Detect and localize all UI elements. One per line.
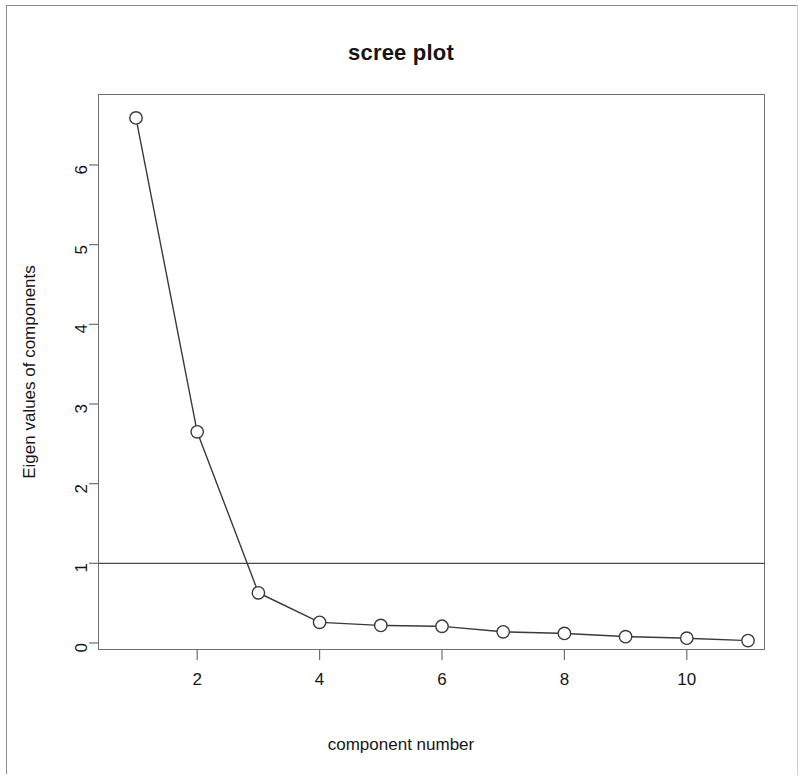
y-tick-label: 4 <box>72 324 92 333</box>
data-point-marker <box>742 634 754 646</box>
plot-drawing-surface <box>0 0 802 776</box>
data-point-marker <box>619 630 631 642</box>
y-tick-label: 5 <box>72 245 92 254</box>
data-point-marker <box>681 632 693 644</box>
data-point-marker <box>497 626 509 638</box>
y-tick-label: 1 <box>72 563 92 572</box>
x-tick-label: 2 <box>192 670 201 690</box>
y-tick-label: 0 <box>72 643 92 652</box>
x-tick-label: 10 <box>677 670 696 690</box>
y-tick-label: 3 <box>72 404 92 413</box>
eigenvalue-series-markers <box>130 112 754 647</box>
data-point-marker <box>130 112 142 124</box>
x-axis-title: component number <box>0 735 802 755</box>
y-axis-title: Eigen values of components <box>20 265 40 479</box>
x-tick-label: 8 <box>560 670 569 690</box>
data-point-marker <box>252 587 264 599</box>
data-point-marker <box>436 620 448 632</box>
data-point-marker <box>313 616 325 628</box>
x-tick-label: 6 <box>437 670 446 690</box>
y-tick-label: 6 <box>72 165 92 174</box>
x-axis-tick-marks <box>197 650 687 660</box>
data-point-marker <box>375 619 387 631</box>
y-tick-label: 2 <box>72 484 92 493</box>
scree-plot-figure: scree plot 0123456 246810 Eigen values o… <box>0 0 802 776</box>
data-point-marker <box>191 426 203 438</box>
x-tick-label: 4 <box>315 670 324 690</box>
data-point-marker <box>558 627 570 639</box>
